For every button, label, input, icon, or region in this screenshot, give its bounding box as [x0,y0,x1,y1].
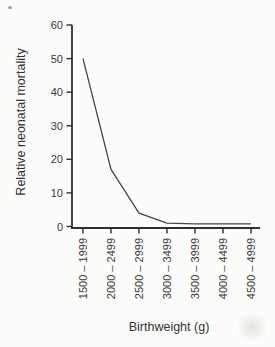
y-tick-label: 60 [51,19,63,31]
chart-svg: 0102030405060 1500 – 19992000 – 24992500… [0,0,275,347]
x-tick-label: 2500 – 2999 [133,238,145,299]
y-tick-label: 30 [51,120,63,132]
y-axis: 0102030405060 [51,19,72,233]
x-tick-label: 4000 – 4499 [217,238,229,299]
x-tick-label: 4500 – 4999 [245,238,257,299]
x-axis: 1500 – 19992000 – 24992500 – 29993000 – … [71,228,260,299]
mortality-birthweight-figure: 0102030405060 1500 – 19992000 – 24992500… [0,0,275,347]
scan-speck-artifact [8,6,12,9]
x-tick-label: 2000 – 2499 [105,238,117,299]
x-tick-label: 3500 – 3999 [189,238,201,299]
y-tick-label: 0 [57,221,63,233]
y-tick-label: 40 [51,86,63,98]
y-tick-label: 50 [51,53,63,65]
x-tick-label: 1500 – 1999 [77,238,89,299]
mortality-line-series [83,59,251,224]
x-axis-title: Birthweight (g) [129,320,210,334]
y-tick-label: 20 [51,153,63,165]
x-tick-label: 3000 – 3499 [161,238,173,299]
y-tick-label: 10 [51,187,63,199]
y-axis-title: Relative neonatal mortality [14,48,28,196]
scan-smudge-artifact [235,312,269,342]
